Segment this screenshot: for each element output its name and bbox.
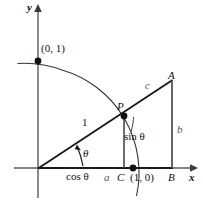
label-side-c: c [145, 80, 150, 91]
y-axis-label: y [27, 2, 32, 13]
segment-hypotenuse-origin-A [38, 80, 173, 169]
x-axis-label: x [189, 172, 195, 183]
label-sin-theta: sin θ [124, 131, 145, 142]
label-point-1-0: (1, 0) [130, 172, 154, 183]
label-point-P: P [117, 101, 124, 112]
label-point-C: C [117, 172, 124, 183]
label-point-B: B [168, 172, 175, 183]
label-side-a: a [104, 172, 110, 183]
label-hypotenuse-unit: 1 [82, 117, 88, 128]
label-theta: θ [83, 148, 88, 159]
y-axis-arrowhead [34, 4, 42, 12]
dot-point-P [121, 113, 128, 120]
geometry-figure: y x (0, 1) P A B C (1, 0) 1 c b a cos θ … [0, 0, 203, 205]
label-cos-theta: cos θ [66, 171, 89, 182]
label-side-b: b [177, 124, 183, 135]
theta-angle-group [75, 145, 83, 167]
dot-point-0-1 [35, 58, 42, 65]
triangle-group [38, 80, 173, 169]
label-point-0-1: (0, 1) [41, 43, 65, 54]
theta-angle-arrowhead [75, 145, 81, 151]
label-point-A: A [168, 70, 175, 81]
